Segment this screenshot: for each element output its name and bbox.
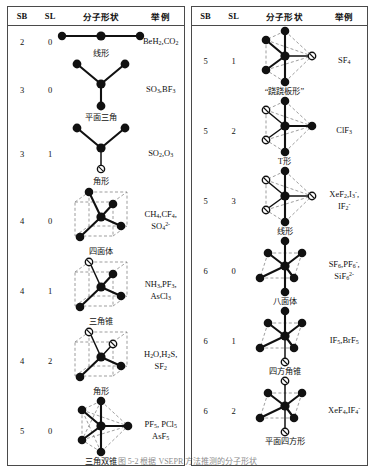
example-formula: ClF3 (336, 125, 352, 135)
table-row: 5 3 (192, 166, 368, 236)
column-header-examples: 举例 (138, 7, 184, 26)
cell-sl: 1 (36, 256, 64, 326)
column-header-sb: SB (8, 7, 36, 26)
example-formula: SO3,BF3 (146, 84, 175, 94)
geometry-tetrahedral-icon (63, 186, 139, 248)
table-row: 2 0 线形 BeH2,CO2 (8, 26, 184, 59)
table-header-row: SB SL 分子形状 举例 (192, 7, 368, 26)
cell-shape-linear-5: 线形 (248, 166, 322, 236)
table-row: 4 2 (8, 326, 184, 396)
figure-caption: 图 5-2 根据 VSEPR 方法推测的分子形状 (0, 455, 375, 466)
cell-shape-t-shaped: T形 (248, 96, 322, 166)
right-panel: SB SL 分子形状 举例 5 1 (191, 6, 369, 466)
cell-sb: 3 (8, 58, 36, 122)
example-formula: IF5,BrF5 (330, 335, 359, 345)
cell-examples: SF4 (321, 26, 367, 97)
cell-shape-seesaw: “跷跷板形” (248, 26, 322, 97)
cell-sb: 6 (192, 306, 220, 376)
geometry-linear-5-icon (242, 166, 328, 228)
cell-shape-square-pyramidal: 四方角锥 (248, 306, 322, 376)
table-header-row: SB SL 分子形状 举例 (8, 7, 184, 26)
table-row: 6 0 (192, 236, 368, 306)
cell-sb: 5 (192, 26, 220, 97)
shape-label: 八面体 (273, 297, 297, 306)
cell-examples: ClF3 (321, 96, 367, 166)
example-formula: SF4 (338, 55, 350, 65)
shape-label: 角形 (93, 387, 109, 396)
cell-shape-bent-two-lone: 角形 (64, 326, 138, 396)
geometry-t-shaped-icon (242, 96, 328, 158)
left-panel: SB SL 分子形状 举例 2 0 (7, 6, 185, 466)
example-formula: SO2,O3 (148, 148, 173, 158)
cell-sb: 4 (8, 186, 36, 256)
shape-label: T形 (278, 157, 291, 166)
geometry-bent-icon (55, 122, 147, 178)
column-header-sl: SL (220, 7, 248, 26)
table-row: 3 0 平面三角 (8, 58, 184, 122)
geometry-square-planar-icon (240, 376, 330, 438)
figure-page: SB SL 分子形状 举例 2 0 (0, 0, 375, 466)
geometry-octahedral-icon (240, 236, 330, 298)
shape-label: 平面四方形 (265, 437, 305, 446)
cell-shape-square-planar: 平面四方形 (248, 376, 322, 446)
cell-sl: 2 (36, 326, 64, 396)
cell-examples: CH4,CF4,SO42- (138, 186, 184, 256)
shape-label: 平面三角 (85, 113, 117, 122)
geometry-trigonal-pyramidal-icon (63, 256, 139, 318)
example-formula: XeF2,I3-,IF2- (329, 189, 359, 211)
table-row: 4 1 (8, 256, 184, 326)
example-formula: CH4,CF4,SO42- (144, 209, 176, 231)
vsepr-table-left: SB SL 分子形状 举例 2 0 (8, 7, 184, 466)
geometry-bent-two-lone-icon (63, 326, 139, 388)
cell-sl: 0 (36, 186, 64, 256)
column-header-shape: 分子形状 (248, 7, 322, 26)
vsepr-table-right: SB SL 分子形状 举例 5 1 (192, 7, 368, 446)
cell-shape-trigonal-pyramidal: 三角锥 (64, 256, 138, 326)
cell-sb: 4 (8, 256, 36, 326)
cell-sb: 4 (8, 326, 36, 396)
cell-sb: 2 (8, 26, 36, 59)
cell-examples: NH3,PF3,AsCl3 (138, 256, 184, 326)
geometry-square-pyramidal-icon (240, 306, 330, 368)
shape-label: “跷跷板形” (265, 87, 304, 96)
shape-label: 线形 (277, 227, 293, 236)
cell-sb: 6 (192, 376, 220, 446)
cell-examples: H2O,H2S,SF2 (138, 326, 184, 396)
example-formula: PF5, PCl5AsF5 (144, 419, 176, 441)
geometry-trigonal-bipyramidal-icon (58, 396, 144, 458)
table-row: 6 2 (192, 376, 368, 446)
example-formula: SF6,PF6-,SiF62- (329, 259, 360, 281)
table-row: 5 2 (192, 96, 368, 166)
table-row: 4 0 (8, 186, 184, 256)
cell-shape-trigonal-planar: 平面三角 (64, 58, 138, 122)
cell-shape-tetrahedral: 四面体 (64, 186, 138, 256)
column-header-sb: SB (192, 7, 220, 26)
example-formula: H2O,H2S,SF2 (144, 349, 177, 371)
table-row: 3 1 角形 (8, 122, 184, 186)
cell-shape-bent: 角形 (64, 122, 138, 186)
shape-label: 四面体 (89, 247, 113, 256)
shape-label: 线形 (93, 49, 109, 58)
cell-shape-octahedral: 八面体 (248, 236, 322, 306)
cell-sb: 6 (192, 236, 220, 306)
geometry-linear-icon (46, 26, 156, 50)
geometry-seesaw-icon (242, 26, 328, 88)
cell-sb: 5 (192, 166, 220, 236)
cell-sb: 3 (8, 122, 36, 186)
shape-label: 四方角锥 (269, 367, 301, 376)
geometry-trigonal-planar-icon (55, 58, 147, 114)
table-row: 5 1 (192, 26, 368, 97)
cell-examples: XeF2,I3-,IF2- (321, 166, 367, 236)
column-header-examples: 举例 (321, 7, 367, 26)
shape-label: 三角锥 (89, 317, 113, 326)
example-formula: XeF4,IF4- (328, 405, 360, 415)
cell-shape-linear: 线形 (64, 26, 138, 59)
shape-label: 角形 (93, 177, 109, 186)
cell-sb: 5 (192, 96, 220, 166)
table-row: 6 1 (192, 306, 368, 376)
column-header-shape: 分子形状 (64, 7, 138, 26)
example-formula: NH3,PF3,AsCl3 (145, 279, 177, 301)
column-header-sl: SL (36, 7, 64, 26)
